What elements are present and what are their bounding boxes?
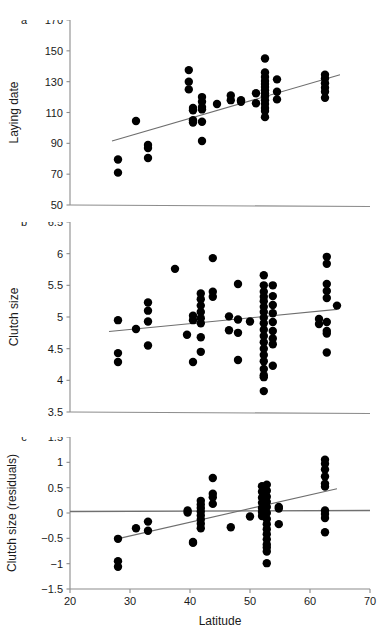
data-point <box>209 474 217 482</box>
y-tick-label: 130 <box>45 76 63 88</box>
data-point <box>269 281 277 289</box>
data-point <box>269 362 277 370</box>
data-point <box>260 357 268 365</box>
data-point <box>269 309 277 317</box>
y-tick-label: 50 <box>51 199 63 211</box>
data-point <box>225 312 233 320</box>
scatter-panel-c: −1.5−1−0.500.511.5cClutch size (residual… <box>0 437 391 642</box>
y-tick-label: −0.5 <box>41 532 63 544</box>
data-point <box>234 315 242 323</box>
data-point <box>144 341 152 349</box>
x-tick-label: 70 <box>364 595 376 607</box>
data-point <box>209 500 217 508</box>
data-point <box>273 95 281 103</box>
data-point <box>323 329 331 337</box>
data-point <box>114 535 122 543</box>
panel-letter-b: b <box>21 222 27 228</box>
data-point <box>114 563 122 571</box>
data-point <box>261 113 269 121</box>
data-points-c <box>114 456 329 571</box>
figure-container: 507090110130150170aLaying date3.544.555.… <box>0 0 391 643</box>
x-axis-line-a <box>70 205 370 207</box>
y-tick-label: 0 <box>57 507 63 519</box>
data-point <box>197 348 205 356</box>
data-point <box>321 514 329 522</box>
data-point <box>114 168 122 176</box>
x-tick-label: 60 <box>304 595 316 607</box>
data-point <box>315 320 323 328</box>
data-point <box>273 87 281 95</box>
data-point <box>323 260 331 268</box>
data-point <box>234 280 242 288</box>
data-point <box>227 523 235 531</box>
y-axis-title-c: Clutch size (residuals) <box>5 454 19 572</box>
data-point <box>144 144 152 152</box>
data-point <box>198 118 206 126</box>
x-axis-line-b <box>70 412 370 414</box>
data-point <box>260 271 268 279</box>
data-point <box>269 327 277 335</box>
data-point <box>321 482 329 490</box>
data-point <box>185 77 193 85</box>
data-point <box>269 318 277 326</box>
data-point <box>189 106 197 114</box>
y-tick-label: −1.5 <box>41 583 63 595</box>
scatter-panel-a: 507090110130150170aLaying date <box>0 20 391 230</box>
scatter-panel-b: 3.544.555.566.5bClutch size <box>0 222 391 434</box>
data-point <box>246 317 254 325</box>
data-point <box>260 373 268 381</box>
data-point <box>323 318 331 326</box>
y-tick-label: 6.5 <box>48 222 63 228</box>
data-point <box>263 547 271 555</box>
data-point <box>189 539 197 547</box>
y-tick-label: 1 <box>57 456 63 468</box>
data-point <box>323 348 331 356</box>
data-point <box>144 527 152 535</box>
y-tick-label: 3.5 <box>48 406 63 418</box>
regression-line-b <box>109 309 337 331</box>
panel-letter-a: a <box>21 20 28 26</box>
data-point <box>114 155 122 163</box>
x-tick-label: 20 <box>64 595 76 607</box>
y-tick-label: 5 <box>57 311 63 323</box>
data-point <box>275 504 283 512</box>
x-tick-label: 50 <box>244 595 256 607</box>
data-point <box>144 154 152 162</box>
data-point <box>275 520 283 528</box>
data-point <box>321 94 329 102</box>
data-point <box>144 306 152 314</box>
data-point <box>183 331 191 339</box>
y-tick-label: 70 <box>51 168 63 180</box>
data-point <box>234 356 242 364</box>
data-point <box>227 96 235 104</box>
data-point <box>132 325 140 333</box>
data-point <box>209 254 217 262</box>
y-tick-label: 110 <box>45 107 63 119</box>
y-axis-title-a: Laying date <box>7 81 21 143</box>
y-tick-label: 6 <box>57 248 63 260</box>
data-point <box>189 358 197 366</box>
y-tick-label: 1.5 <box>48 437 63 443</box>
y-tick-label: 5.5 <box>48 279 63 291</box>
regression-line-a <box>112 75 340 141</box>
data-point <box>198 137 206 145</box>
data-point <box>269 292 277 300</box>
data-point <box>246 512 254 520</box>
data-point <box>234 329 242 337</box>
x-tick-label: 30 <box>124 595 136 607</box>
data-point <box>197 333 205 341</box>
data-point <box>321 528 329 536</box>
y-tick-label: 170 <box>45 20 63 26</box>
data-points-a <box>114 54 329 176</box>
data-point <box>263 559 271 567</box>
data-point <box>261 54 269 62</box>
data-point <box>237 98 245 106</box>
data-point <box>132 117 140 125</box>
panel-letter-c: c <box>21 437 27 443</box>
data-point <box>213 100 221 108</box>
y-tick-label: 150 <box>45 45 63 57</box>
x-tick-label: 40 <box>184 595 196 607</box>
data-point <box>252 99 260 107</box>
y-tick-label: −1 <box>50 558 63 570</box>
data-point <box>197 524 205 532</box>
